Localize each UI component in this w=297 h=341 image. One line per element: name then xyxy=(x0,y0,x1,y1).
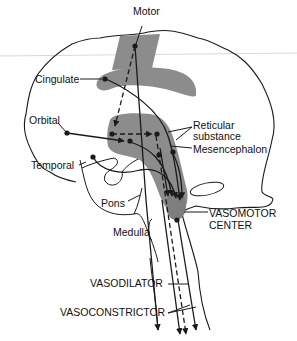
reticular-node-mid xyxy=(127,138,132,143)
label-pons: Pons xyxy=(101,197,125,209)
motor-node xyxy=(132,43,137,48)
vasoconstrictor-tract xyxy=(178,220,196,330)
vasomotor-node xyxy=(174,217,179,222)
pons-leader xyxy=(128,195,140,201)
label-vasomotor-line1: VASOMOTOR xyxy=(209,207,277,219)
mesencephalon-node xyxy=(156,152,161,157)
temporal-leader xyxy=(79,162,86,165)
reticular-node-left xyxy=(109,131,114,136)
label-cingulate: Cingulate xyxy=(35,73,80,85)
label-medulla: Medulla xyxy=(113,226,150,238)
cingulate-node xyxy=(102,76,107,81)
label-reticular-line2: substance xyxy=(193,130,241,142)
label-motor: Motor xyxy=(133,5,160,17)
temporal-node xyxy=(90,154,95,159)
pons-outline xyxy=(134,188,142,214)
cerebellum-lobe xyxy=(189,180,225,199)
label-mesencephalon: Mesencephalon xyxy=(193,143,267,155)
label-orbital: Orbital xyxy=(29,114,60,126)
label-temporal: Temporal xyxy=(31,159,74,171)
reticular-node-right xyxy=(154,131,159,136)
mesencephalon-node-right xyxy=(170,149,175,154)
label-vasodilator: VASODILATOR xyxy=(90,277,163,289)
vasomotor-brain-diagram: Motor Cingulate Orbital Temporal Reticul… xyxy=(0,0,297,341)
temporal-lower-outline xyxy=(80,160,158,262)
label-vasomotor-line2: CENTER xyxy=(209,219,253,231)
label-vasoconstrictor: VASOCONSTRICTOR xyxy=(60,306,166,318)
